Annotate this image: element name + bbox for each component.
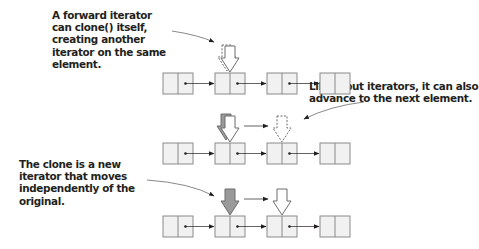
original-iterator-arrow xyxy=(273,189,291,215)
original-iterator-arrow xyxy=(221,46,239,72)
linked-list-diagram xyxy=(0,0,479,249)
clone-callout-arrow xyxy=(172,31,214,42)
clone-iterator-arrow xyxy=(221,189,239,215)
advanced-position-dashed-arrow xyxy=(273,116,291,142)
independent-callout-arrow xyxy=(147,180,214,196)
advance-callout-arrow xyxy=(304,102,364,119)
